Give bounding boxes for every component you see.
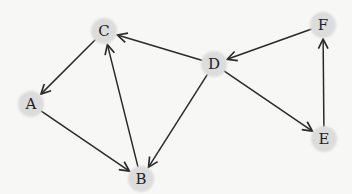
node-f: F [310,12,336,38]
node-a: A [18,91,44,117]
node-label: B [135,170,146,188]
node-label: C [98,22,109,40]
edge-d-to-c [117,35,202,61]
edges-layer [41,29,324,171]
edge-f-to-d [227,29,312,59]
edge-c-to-a [41,39,96,94]
edge-d-to-e [224,71,313,131]
edge-a-to-b [41,111,130,171]
node-c: C [91,18,117,44]
node-d: D [201,51,227,77]
node-label: A [25,95,37,113]
node-label: F [318,16,328,34]
node-label: E [319,130,330,148]
node-b: B [128,166,154,192]
nodes-layer: ABCDEF [18,12,337,192]
graph-canvas: ABCDEF [0,0,352,194]
edge-b-to-c [107,45,138,168]
directed-graph: ABCDEF [0,0,352,194]
node-label: D [208,55,220,73]
edge-e-to-f [323,39,324,127]
node-e: E [311,126,337,152]
edge-d-to-b [149,74,208,167]
